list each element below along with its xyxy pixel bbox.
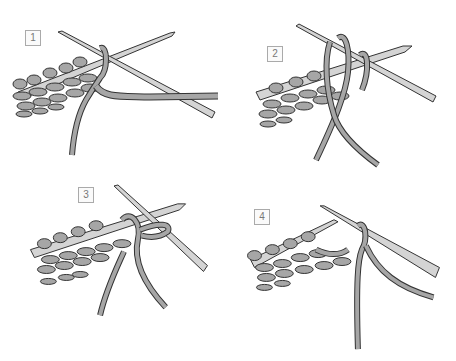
step-4-illustration xyxy=(228,180,456,360)
step-1-panel: 1 xyxy=(0,0,228,180)
step-4-label: 4 xyxy=(254,209,270,225)
step-3-panel: 3 xyxy=(0,180,228,360)
step-1-illustration xyxy=(0,0,228,180)
step-4-panel: 4 xyxy=(228,180,456,360)
step-3-illustration xyxy=(0,180,228,360)
step-1-label: 1 xyxy=(25,30,41,46)
step-3-label: 3 xyxy=(78,187,94,203)
step-2-panel: 2 xyxy=(228,0,456,180)
step-2-illustration xyxy=(228,0,456,180)
step-2-label: 2 xyxy=(267,46,283,62)
